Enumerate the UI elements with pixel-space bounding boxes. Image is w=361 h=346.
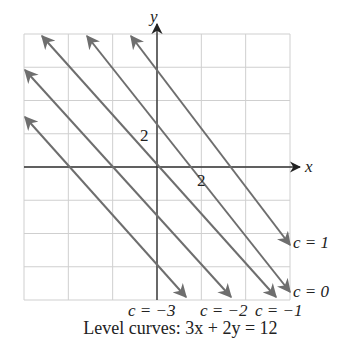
curve-label-c1: c = 1: [293, 234, 329, 251]
level-curve: [25, 117, 186, 297]
level-curve: [87, 36, 290, 292]
curve-label-cm2: c = −2: [200, 302, 248, 319]
y-axis-label: y: [150, 8, 158, 25]
x-tick-label: 2: [197, 172, 206, 189]
y-tick-label: 2: [140, 127, 149, 144]
curve-label-c0: c = 0: [293, 283, 329, 300]
curve-label-cm3: c = −3: [128, 302, 176, 319]
figure-caption: Level curves: 3x + 2y = 12: [0, 318, 361, 339]
curve-label-cm1: c = −1: [255, 302, 303, 319]
x-axis-label: x: [305, 158, 313, 175]
